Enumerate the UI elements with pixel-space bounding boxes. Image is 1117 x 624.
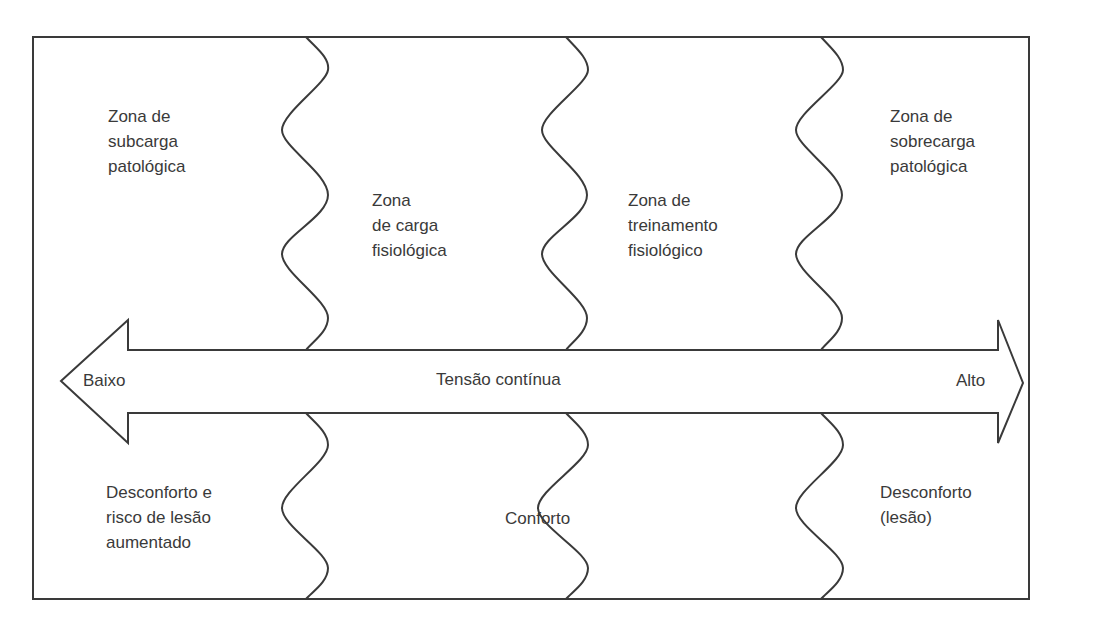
zone-label-line: treinamento (628, 213, 718, 238)
arrow-label-high: Alto (956, 371, 985, 391)
zone-label-carga: Zona de carga fisiológica (372, 188, 447, 263)
zone-boundary-2-top (542, 37, 588, 350)
arrow-label-tension: Tensão contínua (436, 370, 561, 390)
zone-boundary-1-bottom (282, 413, 328, 599)
zone-label-subcarga: Zona de subcarga patológica (108, 104, 186, 179)
zone-label-line: patológica (108, 154, 186, 179)
zone-label-line: risco de lesão (106, 505, 212, 530)
zone-label-desconforto-risco: Desconforto e risco de lesão aumentado (106, 480, 212, 555)
zone-boundary-3-top (796, 37, 843, 350)
zone-label-line: de carga (372, 213, 447, 238)
zone-label-line: Desconforto (880, 480, 972, 505)
zone-label-sobrecarga: Zona de sobrecarga patológica (890, 104, 975, 179)
zone-label-line: fisiológico (628, 238, 718, 263)
arrow-label-low: Baixo (83, 371, 126, 391)
zone-boundary-3-bottom (796, 413, 843, 599)
zone-label-treinamento: Zona de treinamento fisiológico (628, 188, 718, 263)
zone-label-line: fisiológica (372, 238, 447, 263)
zone-boundary-1-top (282, 37, 328, 350)
zone-label-line: Zona de (628, 188, 718, 213)
zone-label-line: Zona de (890, 104, 975, 129)
zone-label-conforto: Conforto (505, 506, 570, 531)
zone-label-line: patológica (890, 154, 975, 179)
zone-label-line: Desconforto e (106, 480, 212, 505)
zone-label-line: subcarga (108, 129, 186, 154)
zone-label-line: sobrecarga (890, 129, 975, 154)
zone-label-line: Zona de (108, 104, 186, 129)
zone-label-line: Zona (372, 188, 447, 213)
zone-label-desconforto-lesao: Desconforto (lesão) (880, 480, 972, 530)
zone-label-line: (lesão) (880, 505, 972, 530)
zone-label-line: Conforto (505, 506, 570, 531)
zone-label-line: aumentado (106, 530, 212, 555)
